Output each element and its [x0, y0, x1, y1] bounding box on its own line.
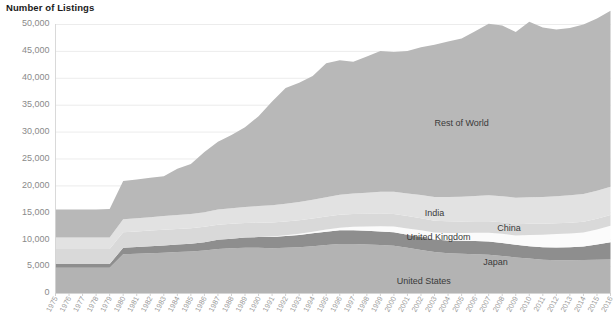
x-axis-tick-label: 1993 — [288, 295, 304, 314]
x-axis-tick-label: 2000 — [383, 295, 399, 314]
area-bands-group — [56, 11, 611, 293]
y-axis-tick-label: 45,000 — [22, 45, 50, 55]
x-axis-tick-label: 2009 — [504, 295, 520, 314]
y-axis-tick-label: 40,000 — [22, 72, 50, 82]
stacked-area-chart: 05,00010,00015,00020,00025,00030,00035,0… — [0, 0, 615, 334]
series-label: Japan — [483, 257, 508, 267]
y-axis-tick-label: 5,000 — [27, 260, 50, 270]
x-axis-tick-label: 2003 — [423, 295, 439, 314]
series-label: United Kingdom — [407, 232, 471, 242]
x-axis-tick-label: 1996 — [328, 295, 344, 314]
x-axis-tick-label: 2007 — [477, 295, 493, 314]
y-axis-tick-label: 30,000 — [22, 126, 50, 136]
y-axis-tick-label: 10,000 — [22, 234, 50, 244]
x-axis-tick-label: 2006 — [464, 295, 480, 314]
x-axis-tick-label: 1990 — [247, 295, 263, 314]
x-axis-tick-label: 1998 — [355, 295, 371, 314]
x-axis-tick-label: 2015 — [586, 295, 602, 314]
x-axis-tick-label: 1982 — [139, 295, 155, 314]
x-axis-tick-label: 2004 — [437, 295, 453, 314]
y-axis-tick-label: 0 — [44, 287, 49, 297]
x-axis-tick-label: 2014 — [572, 295, 588, 314]
y-axis-tick-label: 25,000 — [22, 153, 50, 163]
y-axis-tick-label: 50,000 — [22, 18, 50, 28]
x-axis-tick-label: 1980 — [112, 295, 128, 314]
x-axis-tick-label: 2013 — [558, 295, 574, 314]
x-axis-tick-label: 1987 — [207, 295, 223, 314]
y-axis-ticks-group: 05,00010,00015,00020,00025,00030,00035,0… — [22, 18, 50, 297]
x-axis-tick-label: 2005 — [450, 295, 466, 314]
series-label: United States — [397, 276, 452, 286]
y-axis-tick-label: 20,000 — [22, 180, 50, 190]
x-axis-tick-label: 1983 — [152, 295, 168, 314]
x-axis-tick-label: 2016 — [599, 295, 615, 314]
x-axis-tick-label: 1976 — [58, 295, 74, 314]
x-axis-tick-label: 1984 — [166, 295, 182, 314]
series-label: India — [425, 208, 445, 218]
x-axis-tick-label: 2001 — [396, 295, 412, 314]
x-axis-tick-label: 2012 — [545, 295, 561, 314]
x-axis-tick-label: 1988 — [220, 295, 236, 314]
y-axis-tick-label: 35,000 — [22, 99, 50, 109]
x-axis-tick-label: 1992 — [274, 295, 290, 314]
x-axis-tick-label: 1978 — [85, 295, 101, 314]
x-axis-tick-label: 2002 — [410, 295, 426, 314]
series-label: Rest of World — [434, 118, 488, 128]
x-axis-tick-label: 1995 — [315, 295, 331, 314]
x-axis-ticks-group: 1975197619771978197919801981198219831984… — [44, 293, 615, 313]
x-axis-tick-label: 1979 — [98, 295, 114, 314]
x-axis-tick-label: 1975 — [44, 295, 60, 314]
x-axis-tick-label: 1985 — [179, 295, 195, 314]
x-axis-tick-label: 1997 — [342, 295, 358, 314]
x-axis-tick-label: 2008 — [491, 295, 507, 314]
x-axis-tick-label: 1977 — [71, 295, 87, 314]
chart-figure: Number of Listings 05,00010,00015,00020,… — [0, 0, 615, 334]
x-axis-tick-label: 1994 — [301, 295, 317, 314]
plot-area: 05,00010,00015,00020,00025,00030,00035,0… — [0, 0, 615, 334]
x-axis-tick-label: 1989 — [234, 295, 250, 314]
x-axis-tick-label: 1981 — [125, 295, 141, 314]
y-axis-tick-label: 15,000 — [22, 207, 50, 217]
series-label: China — [497, 223, 521, 233]
x-axis-tick-label: 2010 — [518, 295, 534, 314]
x-axis-tick-label: 1991 — [261, 295, 277, 314]
x-axis-tick-label: 1986 — [193, 295, 209, 314]
x-axis-tick-label: 1999 — [369, 295, 385, 314]
